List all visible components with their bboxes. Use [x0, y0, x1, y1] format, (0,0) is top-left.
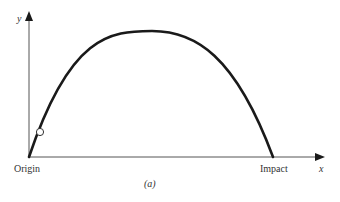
projectile-marker	[36, 128, 43, 135]
impact-label: Impact	[260, 163, 288, 174]
x-axis-arrow-icon	[315, 153, 325, 161]
trajectory-diagram: y x Origin Impact (a)	[0, 0, 340, 202]
figure-caption: (a)	[144, 178, 156, 190]
y-axis-label: y	[16, 13, 22, 24]
y-axis-arrow-icon	[25, 11, 33, 21]
trajectory-curve	[29, 31, 273, 157]
x-axis-label: x	[318, 163, 324, 174]
origin-label: Origin	[14, 163, 40, 174]
